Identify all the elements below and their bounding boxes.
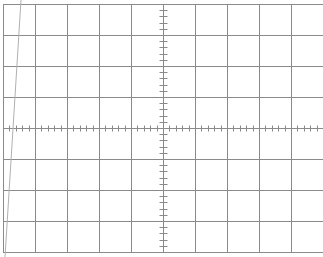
- oscilloscope-graticule: [0, 0, 323, 257]
